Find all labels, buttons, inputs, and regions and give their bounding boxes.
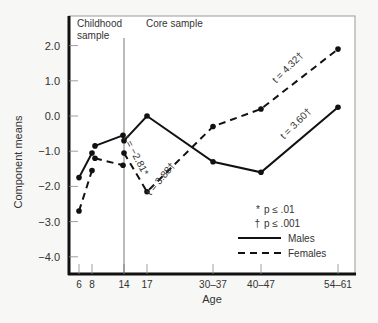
data-point — [121, 150, 127, 156]
legend-p001-label: p ≤ .001 — [264, 218, 301, 229]
data-point — [89, 150, 95, 156]
core-sample-label: Core sample — [146, 18, 203, 29]
y-tick-label: −1.0 — [38, 145, 60, 157]
legend-p01-label: p ≤ .01 — [264, 204, 295, 215]
data-point — [89, 168, 95, 174]
data-point — [258, 170, 264, 176]
y-tick-label: −2.0 — [38, 180, 60, 192]
data-point — [92, 143, 98, 149]
data-point — [120, 162, 126, 168]
y-axis-title: Component means — [12, 115, 24, 208]
y-tick-label: 1.0 — [45, 75, 60, 87]
legend-asterisk-symbol: * — [256, 204, 260, 215]
data-point — [335, 46, 341, 52]
data-point — [92, 155, 98, 161]
data-point — [76, 175, 82, 181]
legend-females-label: Females — [288, 248, 326, 259]
x-tick-label: 40–47 — [247, 279, 275, 290]
y-tick-label: 2.0 — [45, 40, 60, 52]
data-point — [258, 106, 264, 112]
x-tick-label: 8 — [89, 279, 95, 290]
y-tick-label: 0.0 — [45, 110, 60, 122]
line-chart: 2.01.00.0−1.0−2.0−3.0−4.0 68141730–3740–… — [0, 0, 378, 323]
data-point — [144, 113, 150, 119]
x-axis-title: Age — [202, 293, 222, 305]
data-point — [210, 159, 216, 165]
legend-males-label: Males — [288, 233, 315, 244]
data-point — [76, 208, 82, 214]
childhood-sample-label: Childhood — [77, 18, 122, 29]
childhood-sample-label-line2: sample — [77, 30, 110, 41]
x-tick-label: 17 — [141, 279, 153, 290]
x-tick-label: 6 — [76, 279, 82, 290]
x-tick-label: 14 — [118, 279, 130, 290]
data-point — [335, 104, 341, 110]
x-tick-label: 54–61 — [324, 279, 352, 290]
y-tick-label: −4.0 — [38, 251, 60, 263]
y-tick-label: −3.0 — [38, 216, 60, 228]
x-tick-label: 30–37 — [199, 279, 227, 290]
legend-dagger-symbol: † — [254, 218, 260, 229]
data-point — [210, 124, 216, 130]
